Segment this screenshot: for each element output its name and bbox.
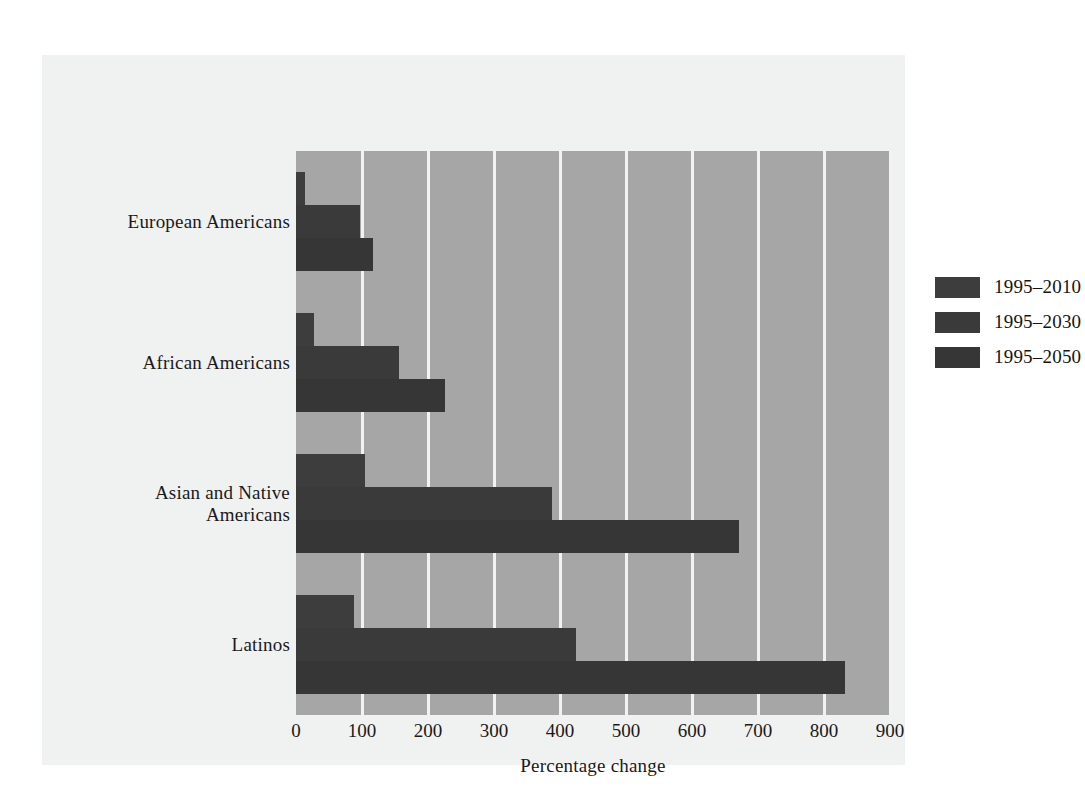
bar (296, 454, 365, 487)
gridline-500 (625, 151, 628, 715)
legend-item[interactable]: 1995–2030 (935, 307, 1085, 337)
gridline-800 (823, 151, 826, 715)
bar (296, 238, 373, 271)
y-axis-label: European Americans (90, 211, 290, 233)
legend-swatch-icon (935, 312, 980, 333)
y-axis-label: African Americans (90, 352, 290, 374)
x-axis-tick-400: 400 (546, 720, 575, 742)
chart-card: European AmericansAfrican AmericansAsian… (42, 55, 905, 765)
x-axis-tick-300: 300 (480, 720, 509, 742)
x-axis-tick-900: 900 (876, 720, 905, 742)
x-axis-tick-labels: 0100200300400500600700800900 (296, 720, 890, 748)
gridline-600 (691, 151, 694, 715)
y-axis-label-line: European Americans (90, 211, 290, 233)
gridline-700 (757, 151, 760, 715)
x-axis-tick-500: 500 (612, 720, 641, 742)
plot-area: 1995–20101995–20301995–2050 (296, 151, 890, 715)
legend-item[interactable]: 1995–2010 (935, 272, 1085, 302)
y-axis-label-line: Americans (90, 504, 290, 526)
legend-label: 1995–2030 (994, 311, 1081, 333)
legend: 1995–20101995–20301995–2050 (935, 272, 1085, 377)
bar (296, 595, 354, 628)
x-axis-tick-0: 0 (291, 720, 301, 742)
x-axis-tick-600: 600 (678, 720, 707, 742)
x-axis-tick-200: 200 (414, 720, 443, 742)
bar (296, 379, 445, 412)
bar (296, 313, 314, 346)
bar (296, 628, 576, 661)
y-axis-label-line: Asian and Native (90, 482, 290, 504)
x-axis-tick-700: 700 (744, 720, 773, 742)
bar (296, 520, 739, 553)
x-axis-tick-100: 100 (348, 720, 377, 742)
y-axis-label: Latinos (90, 634, 290, 656)
gridline-900 (889, 151, 892, 715)
legend-swatch-icon (935, 277, 980, 298)
bar (296, 346, 399, 379)
x-axis-title: Percentage change (296, 755, 890, 777)
legend-label: 1995–2010 (994, 276, 1081, 298)
bar (296, 205, 360, 238)
y-axis-label-line: African Americans (90, 352, 290, 374)
y-axis-label-line: Latinos (90, 634, 290, 656)
legend-swatch-icon (935, 347, 980, 368)
bar (296, 172, 305, 205)
legend-item[interactable]: 1995–2050 (935, 342, 1085, 372)
x-axis-tick-800: 800 (810, 720, 839, 742)
legend-label: 1995–2050 (994, 346, 1081, 368)
bar (296, 487, 552, 520)
y-axis-labels: European AmericansAfrican AmericansAsian… (84, 151, 290, 715)
bar (296, 661, 845, 694)
y-axis-label: Asian and NativeAmericans (90, 482, 290, 527)
